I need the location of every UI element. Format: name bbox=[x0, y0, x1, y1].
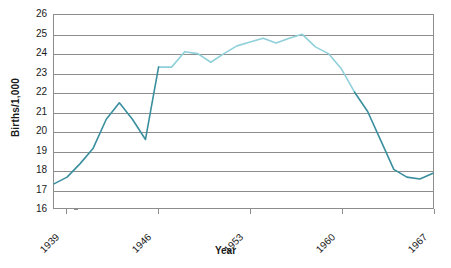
x-axis-tick-mark bbox=[250, 209, 251, 214]
x-axis-tick-mark bbox=[66, 209, 67, 214]
x-axis-tick-mark bbox=[434, 209, 435, 214]
births-per-1000-line-chart: Births/1,000 2625242322212019181716 1939… bbox=[0, 0, 451, 268]
x-axis-title: Year bbox=[0, 245, 451, 256]
x-axis-title-label: Year bbox=[215, 245, 236, 256]
x-axis-tick-mark bbox=[342, 209, 343, 214]
x-axis-tick-labels: 19391946195319601967 bbox=[0, 0, 451, 268]
x-axis-tick-mark bbox=[158, 209, 159, 214]
